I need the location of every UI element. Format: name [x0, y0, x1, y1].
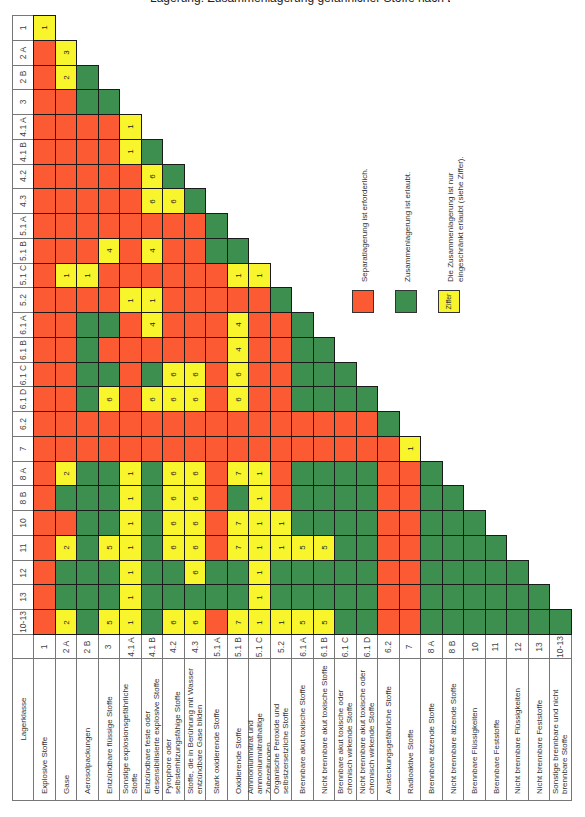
row-name: Organische Peroxide und selbstzersetzlic…: [270, 658, 293, 801]
column-header: 6.1 A: [12, 312, 34, 338]
matrix-cell: 1: [33, 15, 56, 41]
matrix-cell: [442, 535, 465, 561]
matrix-cell: [356, 535, 379, 561]
row-name: Ansteckungsgefährliche Stoffe: [377, 658, 400, 801]
row-name: Brennbare Flüssigkeiten: [463, 658, 486, 801]
matrix-cell: [506, 560, 529, 586]
matrix-cell: [205, 213, 228, 239]
matrix-cell: [141, 560, 164, 586]
matrix-cell: [98, 164, 121, 190]
column-header: 12: [12, 560, 34, 586]
row-name-label: Stoffe, die in Berührung mit Wasser entz…: [186, 662, 204, 794]
row-name: Nicht brennbare ätzende Stoffe: [442, 658, 465, 801]
matrix-cell: [291, 436, 314, 462]
cell-label: 6: [147, 199, 156, 203]
matrix-cell: [313, 485, 336, 511]
column-header: 4.1 B: [12, 139, 34, 165]
matrix-cell: 7: [227, 510, 250, 536]
matrix-cell: [98, 362, 121, 388]
cell-label: 4.1 B: [18, 142, 28, 162]
column-header: 4.1 A: [12, 114, 34, 140]
legend-label: eingeschränkt erlaubt (siehe Ziffer).: [456, 156, 466, 282]
matrix-cell: [313, 337, 336, 363]
row-code: 6.1 B: [313, 634, 336, 659]
page-title-fragment: Lagerung: Zusammenlagerung gefährlicher …: [150, 0, 450, 5]
matrix-cell: [270, 337, 293, 363]
matrix-cell: [55, 362, 78, 388]
matrix-cell: 6: [141, 164, 164, 190]
matrix-cell: [227, 584, 250, 610]
matrix-cell: [270, 461, 293, 487]
row-name: Nicht brennbare akut toxische Stoffe: [313, 658, 336, 801]
matrix-cell: [76, 386, 99, 412]
matrix-cell: [291, 510, 314, 536]
cell-label: 6: [169, 372, 178, 376]
cell-label: 1: [255, 521, 264, 525]
row-name-label: Brennbare akut toxische oder chronisch w…: [336, 662, 354, 794]
row-name-label: Brennbare akut toxische Stoffe: [298, 662, 307, 794]
matrix-cell: [291, 337, 314, 363]
row-code: 5.1 A: [205, 634, 228, 659]
cell-label: 6: [169, 199, 178, 203]
matrix-cell: [356, 485, 379, 511]
row-name: Sonstige explosionsgefährliche Stoffe: [119, 658, 142, 801]
matrix-cell: [291, 386, 314, 412]
cell-label: 6: [169, 471, 178, 475]
matrix-cell: 6: [227, 362, 250, 388]
matrix-cell: [76, 461, 99, 487]
cell-label: 6: [169, 546, 178, 550]
matrix-cell: [377, 411, 400, 437]
matrix-cell: 4: [141, 238, 164, 264]
matrix-cell: [399, 461, 422, 487]
matrix-cell: [442, 560, 465, 586]
matrix-cell: [55, 213, 78, 239]
matrix-cell: [205, 535, 228, 561]
matrix-cell: [33, 485, 56, 511]
legend-swatch-G: [395, 290, 417, 313]
cell-label: 1: [126, 298, 135, 302]
row-name: Explosive Stoffe: [33, 658, 56, 801]
matrix-cell: [205, 337, 228, 363]
matrix-cell: [291, 312, 314, 338]
matrix-cell: [141, 535, 164, 561]
matrix-cell: [76, 89, 99, 115]
matrix-cell: [55, 436, 78, 462]
cell-label: 4: [233, 323, 242, 327]
matrix-cell: [33, 337, 56, 363]
matrix-cell: [141, 362, 164, 388]
row-name: Nicht brennbare Flüssigkeiten: [506, 658, 529, 801]
row-name: Pyrophore oder selbsterhitzungsfähige St…: [162, 658, 185, 801]
matrix-cell: [162, 584, 185, 610]
matrix-cell: [227, 485, 250, 511]
matrix-cell: [76, 584, 99, 610]
row-name-label: Sonstige explosionsgefährliche Stoffe: [121, 662, 139, 794]
matrix-cell: 4: [98, 238, 121, 264]
matrix-cell: [270, 287, 293, 313]
matrix-cell: [291, 362, 314, 388]
matrix-cell: [442, 510, 465, 536]
matrix-cell: [98, 114, 121, 140]
cell-label: 4: [104, 248, 113, 252]
cell-label: 6.1 D: [18, 389, 28, 409]
matrix-cell: [55, 312, 78, 338]
cell-label: 3: [18, 100, 28, 105]
matrix-cell: 6: [162, 386, 185, 412]
matrix-cell: 1: [270, 609, 293, 635]
column-header: 2 B: [12, 65, 34, 91]
matrix-cell: [399, 485, 422, 511]
matrix-cell: [334, 584, 357, 610]
matrix-cell: 1: [248, 609, 271, 635]
matrix-cell: [227, 287, 250, 313]
matrix-cell: 6: [162, 535, 185, 561]
cell-label: 5.1 B: [18, 241, 28, 261]
matrix-cell: 6: [162, 188, 185, 214]
row-code: 12: [506, 634, 529, 659]
matrix-cell: [291, 411, 314, 437]
matrix-cell: 3: [55, 40, 78, 66]
row-code: 5.2: [270, 634, 293, 659]
row-name: Gase: [55, 658, 78, 801]
matrix-cell: [377, 461, 400, 487]
matrix-cell: 1: [248, 485, 271, 511]
row-code: 6.1 C: [334, 634, 357, 659]
matrix-cell: [184, 263, 207, 289]
